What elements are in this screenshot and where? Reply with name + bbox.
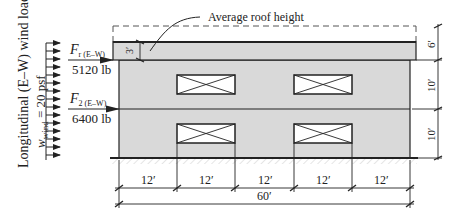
window-upper-left [177, 75, 235, 94]
roof-parapet [113, 42, 416, 60]
roof-dim-3ft: 3′ [124, 47, 135, 54]
dim-story1-10ft: 10′ [425, 128, 437, 141]
force-second-floor-value: 6400 lb [72, 111, 111, 126]
wind-load-arrows [46, 43, 60, 160]
force-roof-value: 5120 lb [72, 62, 111, 77]
wind-load-elevation-diagram: Longitudinal (E–W) wind loads wwind = 20… [0, 0, 459, 224]
window-lower-right [294, 124, 352, 143]
dim-parapet-6ft: 6′ [425, 40, 437, 48]
force-roof: Fr (E–W) 5120 lb [68, 42, 113, 77]
side-label-title: Longitudinal (E–W) wind loads [16, 0, 32, 168]
side-label: Longitudinal (E–W) wind loads wwind = 20… [16, 0, 50, 168]
bay-dim-3: 12′ [258, 173, 273, 187]
dim-story2-10ft: 10′ [425, 79, 437, 92]
bay-dim-1: 12′ [141, 173, 156, 187]
total-length-dim: 60′ [257, 189, 272, 203]
bay-dim-2: 12′ [199, 173, 214, 187]
bay-dim-4: 12′ [316, 173, 331, 187]
bay-dim-5: 12′ [374, 173, 389, 187]
wind-pressure-label: wwind = 20 psf [33, 75, 50, 148]
force-second-floor: F2 (E–W) 6400 lb [68, 91, 119, 126]
avg-roof-height-label: Average roof height [208, 10, 304, 24]
window-lower-left [177, 124, 235, 143]
force-second-floor-label: F2 (E–W) [69, 91, 107, 108]
force-roof-label: Fr (E–W) [69, 42, 105, 59]
window-upper-right [294, 75, 352, 94]
